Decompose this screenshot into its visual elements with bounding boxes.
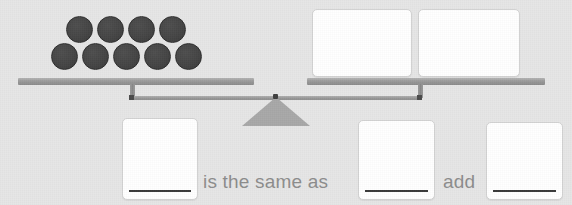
right-pan-box-2[interactable] bbox=[418, 9, 520, 77]
counter bbox=[128, 16, 155, 43]
answer-box-addend-1[interactable] bbox=[358, 120, 435, 200]
operator-label: add bbox=[443, 172, 475, 191]
right-beam-joint bbox=[417, 95, 422, 100]
counter bbox=[51, 43, 78, 70]
right-pan-bar bbox=[307, 78, 545, 85]
left-beam-joint bbox=[129, 95, 134, 100]
answer-box-addend-2[interactable] bbox=[486, 122, 563, 200]
connector-label: is the same as bbox=[203, 172, 328, 191]
left-pan-bar bbox=[18, 78, 254, 85]
fulcrum-triangle bbox=[242, 97, 310, 126]
answer-box-total[interactable] bbox=[122, 118, 198, 200]
counter bbox=[159, 16, 186, 43]
counter bbox=[66, 16, 93, 43]
counter bbox=[175, 43, 202, 70]
right-pan-box-1[interactable] bbox=[312, 9, 412, 77]
counter bbox=[82, 43, 109, 70]
counter bbox=[97, 16, 124, 43]
pivot-dot bbox=[273, 94, 278, 99]
worksheet-canvas: is the same as add bbox=[0, 0, 572, 205]
counter bbox=[144, 43, 171, 70]
counter bbox=[113, 43, 140, 70]
